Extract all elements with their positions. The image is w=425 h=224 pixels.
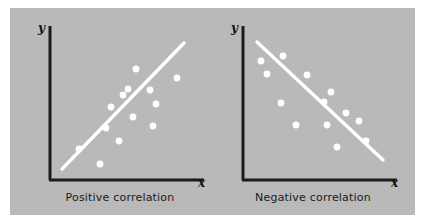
x-axis-label: x xyxy=(391,177,398,189)
chart-negative-correlation: y x Negative correlation xyxy=(215,8,411,215)
correlation-figure: y x Positive correlation xyxy=(0,0,425,224)
x-axis-label: x xyxy=(198,177,205,189)
chart-caption-positive: Positive correlation xyxy=(22,191,218,204)
chart-positive-correlation: y x Positive correlation xyxy=(22,8,218,215)
scatter-plot-negative xyxy=(215,8,411,215)
y-axis-label: y xyxy=(38,22,45,34)
y-axis-label: y xyxy=(231,22,238,34)
scatter-plot-positive xyxy=(22,8,218,215)
figure-panel: y x Positive correlation xyxy=(10,8,415,215)
data-points xyxy=(76,66,181,168)
data-points xyxy=(258,53,370,151)
chart-caption-negative: Negative correlation xyxy=(215,191,411,204)
